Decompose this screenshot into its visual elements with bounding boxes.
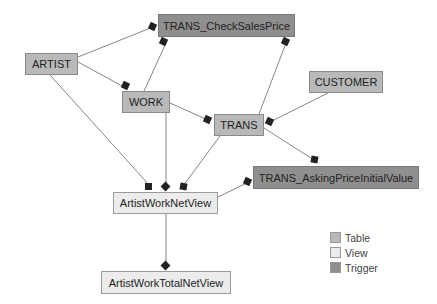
node-label: WORK [129, 96, 163, 108]
legend: Table View Trigger [330, 230, 378, 275]
legend-item-view: View [330, 245, 378, 260]
legend-item-table: Table [330, 230, 378, 245]
connector-diamond-icon [148, 22, 157, 31]
node-label: TRANS [220, 119, 257, 131]
node-work[interactable]: WORK [122, 91, 170, 113]
node-artist-work-total-net-view[interactable]: ArtistWorkTotalNetView [101, 271, 231, 294]
node-trans-asking-price-initial-value[interactable]: TRANS_AskingPriceInitialValue [253, 166, 419, 189]
node-label: TRANS_CheckSalesPrice [163, 20, 290, 32]
node-trans[interactable]: TRANS [214, 114, 264, 136]
node-label: ARTIST [32, 58, 71, 70]
view-swatch-icon [330, 247, 341, 258]
table-swatch-icon [330, 232, 341, 243]
node-label: ArtistWorkNetView [120, 197, 211, 209]
node-trans-check-sales-price[interactable]: TRANS_CheckSalesPrice [158, 14, 295, 37]
node-label: TRANS_AskingPriceInitialValue [259, 172, 413, 184]
legend-label: Trigger [345, 262, 378, 274]
node-label: ArtistWorkTotalNetView [109, 277, 224, 289]
trigger-swatch-icon [330, 262, 341, 273]
node-customer[interactable]: CUSTOMER [309, 71, 383, 93]
node-artist[interactable]: ARTIST [25, 53, 78, 75]
legend-label: Table [345, 232, 370, 244]
node-label: CUSTOMER [315, 76, 378, 88]
legend-item-trigger: Trigger [330, 260, 378, 275]
legend-label: View [345, 247, 368, 259]
node-artist-work-net-view[interactable]: ArtistWorkNetView [113, 192, 218, 214]
